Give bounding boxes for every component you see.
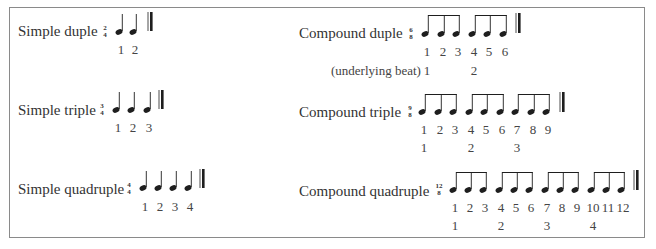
- quarter-note-icon: [139, 171, 148, 192]
- beamed-eighth-notes-icon: [421, 15, 461, 38]
- quarter-note-icon: [112, 92, 121, 114]
- quarter-note-icon: [184, 171, 193, 192]
- quarter-note-icon: [143, 92, 152, 114]
- final-barline-icon: [200, 169, 205, 188]
- quarter-note-icon: [115, 14, 124, 36]
- beamed-eighth-notes-icon: [449, 172, 488, 194]
- final-barline-icon: [159, 90, 164, 109]
- quarter-note-icon: [169, 171, 178, 192]
- beamed-eighth-notes-icon: [541, 172, 580, 194]
- beamed-eighth-notes-icon: [465, 94, 505, 116]
- final-barline-icon: [516, 13, 521, 33]
- beamed-eighth-notes-icon: [495, 172, 534, 194]
- final-barline-icon: [634, 170, 639, 190]
- beamed-eighth-notes-icon: [587, 172, 626, 194]
- beamed-eighth-notes-icon: [468, 15, 508, 38]
- beamed-eighth-notes-icon: [418, 94, 458, 116]
- notation-layer: [0, 0, 656, 249]
- quarter-note-icon: [154, 171, 163, 192]
- beamed-eighth-notes-icon: [511, 94, 551, 116]
- final-barline-icon: [148, 12, 153, 31]
- final-barline-icon: [560, 92, 565, 112]
- quarter-note-icon: [127, 92, 136, 114]
- quarter-note-icon: [129, 14, 138, 36]
